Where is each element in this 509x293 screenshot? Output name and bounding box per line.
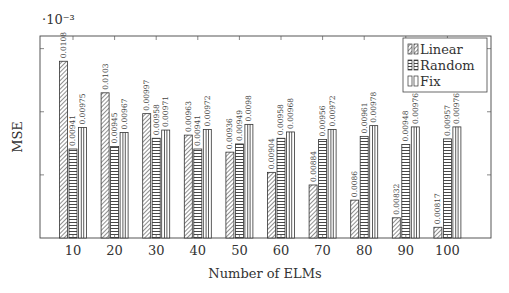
bar-linear: 0.00904 <box>267 138 276 238</box>
bar-random: 0.00958 <box>152 104 161 238</box>
x-tick-label: 90 <box>398 243 415 258</box>
bar-value-label: 0.00941 <box>193 115 202 146</box>
svg-text:Random: Random <box>420 58 475 73</box>
x-tick-label: 70 <box>314 243 331 258</box>
bar-value-label: 0.00958 <box>152 104 161 135</box>
bar-value-label: 0.00978 <box>369 91 378 122</box>
bar-fix: 0.00972 <box>328 95 337 238</box>
bar-value-label: 0.00975 <box>78 93 87 124</box>
bar-value-label: 0.00958 <box>277 104 286 135</box>
bar-value-label: 0.00971 <box>161 96 170 127</box>
bar-chart: ·10⁻³ 0.01080.009410.009750.01030.009450… <box>0 0 509 293</box>
bar-random: 0.00948 <box>401 110 410 238</box>
svg-text:Linear: Linear <box>420 42 464 57</box>
bar-value-label: 0.00967 <box>120 98 129 129</box>
bar-value-label: 0.00936 <box>225 118 234 149</box>
bar-value-label: 0.00968 <box>286 98 295 129</box>
x-tick-label: 80 <box>356 243 373 258</box>
bar-fix: 0.00971 <box>161 96 170 238</box>
x-axis-title: Number of ELMs <box>208 266 321 281</box>
bar-value-label: 0.00949 <box>235 110 244 141</box>
bar-fix: 0.00975 <box>78 93 87 238</box>
bar-value-label: 0.00972 <box>203 95 212 126</box>
bar-random: 0.00945 <box>110 112 119 238</box>
bar-value-label: 0.00972 <box>328 95 337 126</box>
bar-fix: 0.00976 <box>411 93 420 238</box>
bar-value-label: 0.00976 <box>452 93 461 124</box>
x-tick-label: 30 <box>148 243 165 258</box>
bar-value-label: 0.00817 <box>433 193 442 224</box>
x-tick-label: 50 <box>231 243 248 258</box>
bar-random: 0.00958 <box>277 104 286 238</box>
bar-linear: 0.00963 <box>184 101 193 238</box>
bar-fix: 0.00976 <box>452 93 461 238</box>
bar-fix: 0.00978 <box>369 91 378 238</box>
x-tick-label: 40 <box>190 243 207 258</box>
bar-value-label: 0.00948 <box>401 110 410 141</box>
bar-value-label: 0.00904 <box>267 138 276 169</box>
x-tick-label: 10 <box>65 243 82 258</box>
bar-linear: 0.0108 <box>59 32 68 238</box>
bar-fix: 0.00967 <box>120 98 129 238</box>
bar-value-label: 0.00976 <box>411 93 420 124</box>
bar-random: 0.00949 <box>235 110 244 238</box>
y-axis-title: MSE <box>10 121 25 153</box>
svg-text:Fix: Fix <box>420 74 441 89</box>
bar-linear: 0.0086 <box>350 171 359 238</box>
bar-random: 0.00941 <box>69 115 78 238</box>
bar-fix: 0.0098 <box>244 95 253 238</box>
bar-value-label: 0.0098 <box>244 95 253 121</box>
x-tick-label: 60 <box>273 243 290 258</box>
bar-linear: 0.00884 <box>309 151 318 238</box>
bar-linear: 0.00936 <box>225 118 234 238</box>
bar-value-label: 0.00963 <box>184 101 193 132</box>
bar-linear: 0.0103 <box>101 63 110 238</box>
bar-random: 0.00956 <box>318 105 327 238</box>
legend: LinearRandomFix <box>403 38 487 92</box>
bar-fix: 0.00972 <box>203 95 212 238</box>
bar-value-label: 0.00961 <box>360 102 369 133</box>
bar-value-label: 0.00997 <box>142 79 151 110</box>
bar-random: 0.00961 <box>360 102 369 238</box>
bar-value-label: 0.00945 <box>110 112 119 143</box>
bar-linear: 0.00832 <box>392 184 401 238</box>
bar-value-label: 0.0086 <box>350 171 359 197</box>
bar-linear: 0.00817 <box>433 193 442 238</box>
bar-fix: 0.00968 <box>286 98 295 238</box>
bar-value-label: 0.00941 <box>69 115 78 146</box>
bar-linear: 0.00997 <box>142 79 151 238</box>
bar-value-label: 0.00884 <box>309 151 318 182</box>
bar-value-label: 0.00957 <box>443 105 452 136</box>
bars-group: 0.01080.009410.009750.01030.009450.00967… <box>59 32 461 238</box>
bar-value-label: 0.0103 <box>101 63 110 89</box>
x-tick-label: 20 <box>106 243 123 258</box>
bar-random: 0.00957 <box>443 105 452 238</box>
bar-value-label: 0.00832 <box>392 184 401 215</box>
bar-random: 0.00941 <box>193 115 202 238</box>
bar-value-label: 0.0108 <box>59 32 68 58</box>
bar-value-label: 0.00956 <box>318 105 327 136</box>
x-tick-label: 100 <box>435 243 460 258</box>
y-multiplier-label: ·10⁻³ <box>42 12 75 27</box>
